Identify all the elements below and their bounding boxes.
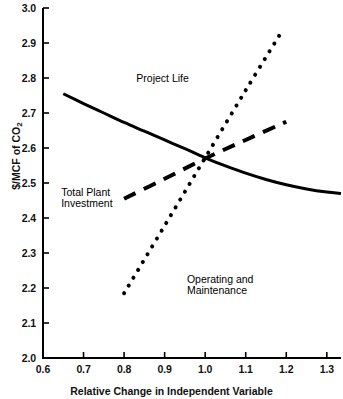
x-tick-label: 0.9: [145, 363, 185, 375]
chart-axes: [43, 8, 341, 358]
x-tick-label: 1.2: [266, 363, 306, 375]
y-tick-label: 2.2: [0, 282, 36, 294]
y-axis-title-text: $/MCF of CO: [10, 127, 22, 190]
x-tick-label: 1.1: [226, 363, 266, 375]
y-tick-label: 2.3: [0, 247, 36, 259]
y-axis-title-subscript: 2: [15, 122, 24, 126]
annotation-project-life: Project Life: [136, 72, 189, 84]
figure-sensitivity-chart: 2.02.12.22.32.42.52.62.72.82.93.0 0.60.7…: [0, 0, 343, 399]
annotation-total-plant-line2: Investment: [61, 197, 112, 209]
annotation-total-plant-line1: Total Plant: [61, 186, 110, 198]
x-tick-label: 0.8: [104, 363, 144, 375]
x-tick-label: 1.0: [185, 363, 225, 375]
x-tick-label: 0.6: [23, 363, 63, 375]
y-axis-title: $/MCF of CO2: [10, 96, 22, 216]
y-tick-label: 2.1: [0, 317, 36, 329]
series-line-operating-and-maintenance: [124, 31, 282, 294]
y-tick-label: 3.0: [0, 2, 36, 14]
y-tick-label: 2.8: [0, 72, 36, 84]
annotation-operating-line2: Maintenance: [187, 284, 247, 296]
y-tick-label: 2.9: [0, 37, 36, 49]
chart-canvas: [0, 0, 343, 399]
series-line-project-life: [63, 94, 341, 194]
x-tick-label: 1.3: [307, 363, 343, 375]
chart-series-group: [63, 31, 341, 294]
x-tick-label: 0.7: [64, 363, 104, 375]
x-axis-title: Relative Change in Independent Variable: [0, 385, 343, 397]
axis-frame: [43, 8, 341, 358]
